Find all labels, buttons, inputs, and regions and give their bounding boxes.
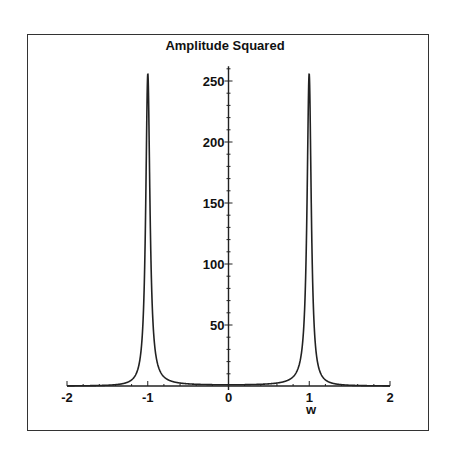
x-tick-label: -2 xyxy=(61,390,73,405)
x-tick-label: 0 xyxy=(225,390,232,405)
y-tick-label: 100 xyxy=(203,257,225,272)
plot-area: -2-101250100150200250 w xyxy=(0,0,450,456)
axes xyxy=(67,66,390,390)
y-tick-label: 150 xyxy=(203,196,225,211)
y-tick-label: 50 xyxy=(210,318,224,333)
y-tick-label: 200 xyxy=(203,135,225,150)
x-tick-label: 2 xyxy=(386,390,393,405)
x-tick-label: -1 xyxy=(142,390,154,405)
x-axis-label: w xyxy=(305,402,317,417)
y-tick-label: 250 xyxy=(203,74,225,89)
